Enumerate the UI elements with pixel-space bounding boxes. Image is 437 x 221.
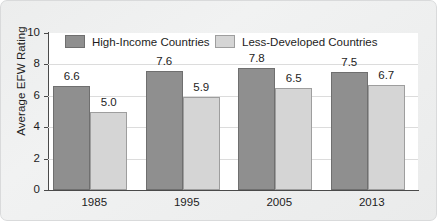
bar-value-label: 6.5 — [271, 72, 316, 84]
bar-high-income-1995[interactable] — [146, 71, 183, 190]
bar-less-developed-1995[interactable] — [183, 97, 220, 190]
legend-label-less-developed: Less-Developed Countries — [242, 36, 378, 48]
bar-value-label: 6.7 — [364, 69, 409, 81]
legend-item-high-income[interactable]: High-Income Countries — [65, 35, 210, 48]
bar-value-label: 6.6 — [49, 70, 94, 82]
x-category-label: 1995 — [141, 196, 234, 208]
y-tick-label: 4 — [14, 120, 40, 132]
chart-legend: High-Income Countries Less-Developed Cou… — [48, 35, 418, 55]
bar-value-label: 7.6 — [142, 55, 187, 67]
bar-less-developed-2013[interactable] — [368, 85, 405, 190]
bar-high-income-1985[interactable] — [53, 86, 90, 190]
y-axis-title: Average EFW Rating — [15, 1, 33, 161]
bar-less-developed-2005[interactable] — [275, 88, 312, 190]
x-axis-line — [48, 190, 419, 191]
bar-value-label: 5.9 — [179, 81, 224, 93]
x-category-label: 1985 — [48, 196, 141, 208]
y-tick-mark — [44, 190, 48, 191]
bar-high-income-2013[interactable] — [331, 72, 368, 190]
bar-value-label: 7.5 — [327, 56, 372, 68]
y-tick-mark — [44, 33, 48, 34]
y-tick-label: 10 — [14, 26, 40, 38]
y-tick-label: 8 — [14, 57, 40, 69]
y-axis-line — [48, 32, 49, 191]
x-category-label: 2013 — [326, 196, 419, 208]
legend-item-less-developed[interactable]: Less-Developed Countries — [215, 35, 378, 48]
bar-high-income-2005[interactable] — [238, 68, 275, 190]
chart-figure: Average EFW Rating 0246810 6.65.07.65.97… — [0, 0, 437, 221]
y-tick-label: 6 — [14, 89, 40, 101]
bar-value-label: 5.0 — [86, 96, 131, 108]
legend-swatch-high-income — [65, 35, 85, 48]
bar-less-developed-1985[interactable] — [90, 112, 127, 191]
y-tick-label: 2 — [14, 152, 40, 164]
x-category-label: 2005 — [233, 196, 326, 208]
y-tick-label: 0 — [14, 183, 40, 195]
legend-swatch-less-developed — [215, 35, 235, 48]
legend-label-high-income: High-Income Countries — [92, 36, 210, 48]
